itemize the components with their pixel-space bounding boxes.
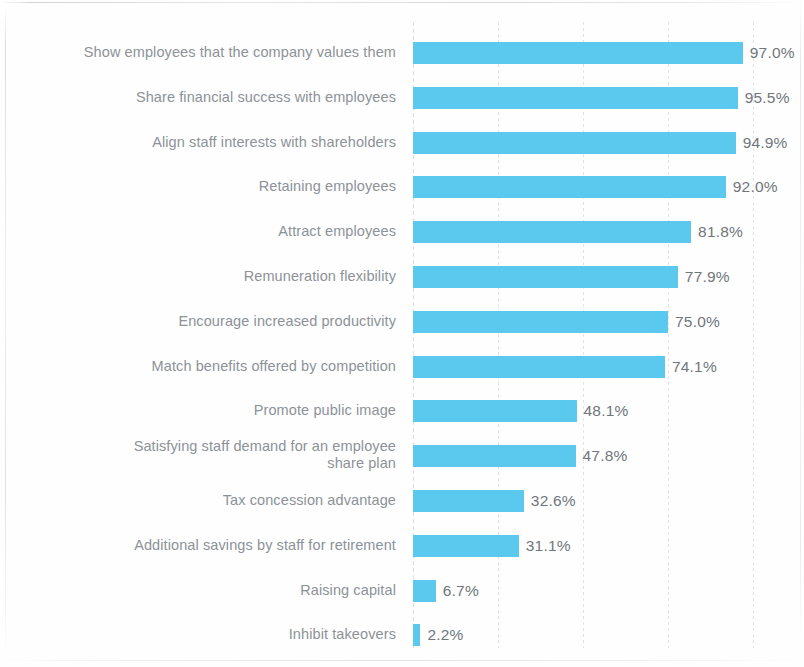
category-label-line1: Promote public image [254, 402, 396, 418]
bar-row: Align staff interests with shareholders9… [0, 121, 804, 166]
bar[interactable] [413, 221, 691, 243]
bar-row: Attract employees81.8% [0, 210, 804, 255]
chart-bar-rows: Show employees that the company values t… [0, 0, 804, 667]
category-label: Raising capital [10, 582, 396, 599]
category-label-line1: Align staff interests with shareholders [152, 134, 396, 150]
category-label-line1: Remuneration flexibility [244, 268, 396, 284]
bar-row: Match benefits offered by competition74.… [0, 345, 804, 390]
bar-row: Show employees that the company values t… [0, 31, 804, 76]
bar[interactable] [413, 535, 519, 557]
bar-row: Encourage increased productivity75.0% [0, 300, 804, 345]
chart-page: Show employees that the company values t… [0, 0, 804, 667]
bar-row: Inhibit takeovers2.2% [0, 613, 804, 658]
bar-row: Tax concession advantage32.6% [0, 479, 804, 524]
bar[interactable] [413, 266, 678, 288]
bar-value-label: 94.9% [743, 133, 788, 153]
bar-value-label: 48.1% [584, 401, 629, 421]
bar-row: Retaining employees92.0% [0, 165, 804, 210]
bar-row: Additional savings by staff for retireme… [0, 524, 804, 569]
category-label: Share financial success with employees [10, 89, 396, 106]
category-label-line1: Attract employees [278, 223, 396, 239]
bar[interactable] [413, 87, 738, 109]
bar-value-label: 32.6% [531, 491, 576, 511]
bar-row: Share financial success with employees95… [0, 76, 804, 121]
bar-value-label: 2.2% [427, 625, 463, 645]
bar[interactable] [413, 490, 524, 512]
bar[interactable] [413, 400, 577, 422]
category-label: Retaining employees [10, 178, 396, 195]
bar[interactable] [413, 311, 668, 333]
category-label-line1: Raising capital [300, 582, 396, 598]
bar-row: Remuneration flexibility77.9% [0, 255, 804, 300]
category-label: Match benefits offered by competition [10, 358, 396, 375]
bar-value-label: 75.0% [675, 312, 720, 332]
category-label-line1: Additional savings by staff for retireme… [134, 537, 396, 553]
bar[interactable] [413, 580, 436, 602]
category-label: Attract employees [10, 223, 396, 240]
category-label: Show employees that the company values t… [10, 44, 396, 61]
category-label-line1: Show employees that the company values t… [84, 44, 396, 60]
category-label-line1: Retaining employees [259, 178, 396, 194]
category-label-line1: Inhibit takeovers [289, 626, 396, 642]
bar-value-label: 6.7% [443, 581, 479, 601]
category-label: Additional savings by staff for retireme… [10, 537, 396, 554]
bar-value-label: 77.9% [685, 267, 730, 287]
category-label: Tax concession advantage [10, 492, 396, 509]
bar-value-label: 95.5% [745, 88, 790, 108]
category-label: Satisfying staff demand for an employees… [10, 438, 396, 472]
bar-row: Satisfying staff demand for an employees… [0, 434, 804, 479]
horizontal-bar-chart: Show employees that the company values t… [0, 0, 804, 667]
bar-row: Promote public image48.1% [0, 389, 804, 434]
bar[interactable] [413, 176, 726, 198]
category-label: Align staff interests with shareholders [10, 134, 396, 151]
bar[interactable] [413, 42, 743, 64]
bar[interactable] [413, 356, 665, 378]
category-label-line1: Share financial success with employees [136, 89, 396, 105]
category-label-line2: share plan [10, 455, 396, 472]
bar-value-label: 74.1% [672, 357, 717, 377]
bar-value-label: 97.0% [750, 43, 795, 63]
category-label: Remuneration flexibility [10, 268, 396, 285]
bar-value-label: 92.0% [733, 177, 778, 197]
bar-value-label: 31.1% [526, 536, 571, 556]
bar-value-label: 81.8% [698, 222, 743, 242]
category-label: Inhibit takeovers [10, 626, 396, 643]
category-label: Promote public image [10, 402, 396, 419]
category-label-line1: Satisfying staff demand for an employee [134, 438, 396, 454]
category-label-line1: Match benefits offered by competition [152, 358, 396, 374]
bar[interactable] [413, 445, 576, 467]
category-label: Encourage increased productivity [10, 313, 396, 330]
bar-row: Raising capital6.7% [0, 569, 804, 614]
bar[interactable] [413, 624, 420, 646]
bar[interactable] [413, 132, 736, 154]
bar-value-label: 47.8% [583, 446, 628, 466]
category-label-line1: Tax concession advantage [223, 492, 396, 508]
category-label-line1: Encourage increased productivity [178, 313, 396, 329]
